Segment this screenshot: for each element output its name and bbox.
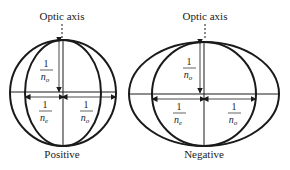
left-fraction-label: 1 ne (173, 101, 186, 127)
index-ellipsoid-diagram: Optic axis 1 no 1 ne 1 no Positive (0, 0, 290, 170)
negative-figure: Optic axis 1 no 1 ne 1 no Negative (129, 10, 279, 160)
svg-text:ne: ne (40, 112, 48, 125)
optic-axis-label: Optic axis (40, 10, 85, 22)
svg-text:no: no (41, 71, 50, 84)
optic-axis-label: Optic axis (183, 10, 228, 22)
negative-caption: Negative (184, 148, 224, 160)
svg-text:1: 1 (43, 99, 48, 110)
svg-text:1: 1 (84, 99, 89, 110)
right-fraction-label: 1 no (80, 99, 93, 125)
positive-figure: Optic axis 1 no 1 ne 1 no Positive (10, 10, 117, 160)
svg-text:no: no (81, 112, 90, 125)
right-fraction-label: 1 no (228, 101, 241, 127)
vertical-fraction-label: 1 no (40, 58, 53, 84)
left-fraction-label: 1 ne (39, 99, 52, 125)
svg-text:1: 1 (177, 101, 182, 112)
svg-text:ne: ne (174, 114, 182, 127)
svg-text:1: 1 (187, 56, 192, 67)
svg-text:no: no (184, 69, 193, 82)
svg-text:1: 1 (44, 58, 49, 69)
vertical-fraction-label: 1 no (183, 56, 196, 82)
svg-text:no: no (229, 114, 238, 127)
positive-caption: Positive (44, 148, 80, 160)
svg-text:1: 1 (232, 101, 237, 112)
